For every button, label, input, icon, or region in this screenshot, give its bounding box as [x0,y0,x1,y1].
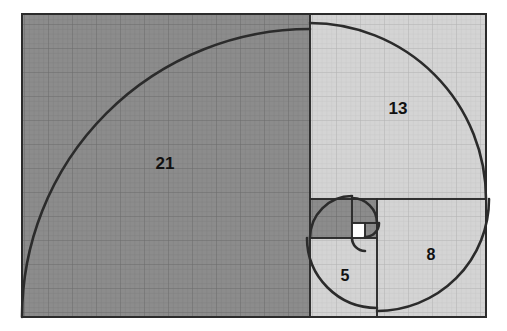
fibonacci-label-21: 21 [156,154,175,173]
fibonacci-square-1-7 [352,223,365,238]
fibonacci-spiral-canvas: 211385 [0,0,507,331]
fibonacci-spiral-figure: 211385 [0,0,507,331]
fibonacci-label-5: 5 [341,267,350,284]
fibonacci-label-13: 13 [389,99,408,118]
fibonacci-label-8: 8 [427,246,436,263]
fibonacci-square-3-4 [310,199,352,238]
